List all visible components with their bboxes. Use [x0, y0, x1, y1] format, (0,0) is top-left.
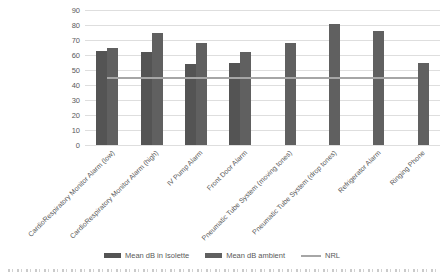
x-axis-category-label: IV Pump Alarm: [166, 149, 204, 187]
bar-ambient: [107, 48, 118, 146]
y-axis-tick-label: 60: [62, 51, 80, 60]
cropped-caption-text: [8, 269, 436, 272]
bar-chart: 0102030405060708090CardioRespiratory Mon…: [0, 0, 444, 274]
gridline: [85, 55, 440, 56]
legend-label: Mean dB in Isolette: [125, 251, 189, 260]
x-axis-category-label: Pneumatic Tube System (drop tones): [250, 149, 337, 236]
bar-isolette: [229, 63, 240, 146]
y-axis-tick-label: 50: [62, 66, 80, 75]
y-axis-tick-label: 80: [62, 21, 80, 30]
y-axis-tick-label: 10: [62, 126, 80, 135]
legend-swatch-icon: [104, 253, 121, 258]
legend-item: Mean dB in Isolette: [104, 251, 189, 260]
x-axis-category-label: Pneumatic Tube System (moving tones): [200, 149, 293, 242]
legend-label: NRL: [325, 251, 340, 260]
gridline: [85, 115, 440, 116]
legend-swatch-icon: [205, 253, 222, 258]
y-axis-tick-label: 0: [62, 141, 80, 150]
gridline: [85, 70, 440, 71]
bar-ambient: [285, 43, 296, 145]
x-axis-category-label: CardioRespiratory Monitor Alarm (high): [69, 149, 160, 240]
bar-ambient: [373, 31, 384, 145]
x-axis-category-label: Ringing Phone: [388, 149, 425, 186]
gridline: [85, 85, 440, 86]
bar-isolette: [96, 51, 107, 146]
gridline: [85, 145, 440, 146]
y-axis-tick-label: 20: [62, 111, 80, 120]
x-axis-category-label: CardioRespiratory Monitor Alarm (low): [26, 149, 115, 238]
bar-ambient: [152, 33, 163, 146]
bar-ambient: [240, 52, 251, 145]
gridline: [85, 10, 440, 11]
nrl-reference-line: [107, 77, 418, 79]
bar-ambient: [329, 24, 340, 146]
y-axis-tick-label: 70: [62, 36, 80, 45]
y-axis-tick-label: 40: [62, 81, 80, 90]
legend-label: Mean dB ambient: [226, 251, 285, 260]
gridline: [85, 40, 440, 41]
bar-ambient: [418, 63, 429, 146]
legend-line-swatch-icon: [301, 255, 321, 257]
x-axis-category-label: Refrigerator Alarm: [336, 149, 381, 194]
x-axis-category-label: Front Door Alarm: [206, 149, 249, 192]
y-axis-tick-label: 90: [62, 6, 80, 15]
chart-legend: Mean dB in IsoletteMean dB ambientNRL: [0, 251, 444, 260]
bar-ambient: [196, 43, 207, 145]
gridline: [85, 130, 440, 131]
gridline: [85, 100, 440, 101]
plot-area: 0102030405060708090CardioRespiratory Mon…: [0, 0, 444, 274]
legend-item: NRL: [301, 251, 340, 260]
gridline: [85, 25, 440, 26]
y-axis-tick-label: 30: [62, 96, 80, 105]
bar-isolette: [141, 52, 152, 145]
legend-item: Mean dB ambient: [205, 251, 285, 260]
